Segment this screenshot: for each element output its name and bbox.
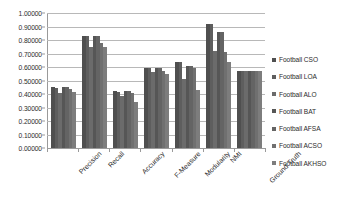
legend-item[interactable]: Football LOA bbox=[272, 69, 349, 84]
legend-item[interactable]: Football ACSO bbox=[272, 138, 349, 153]
legend-item[interactable]: Football BAT bbox=[272, 104, 349, 119]
x-axis-tick-label: Accuracy bbox=[140, 150, 165, 175]
y-axis-tick-label: 0.80000 bbox=[19, 37, 42, 44]
legend: Football CSOFootball LOAFootball ALOFoot… bbox=[272, 52, 349, 173]
y-axis-labels: 1.000000.900000.800000.700000.600000.500… bbox=[0, 13, 45, 148]
bar bbox=[258, 71, 261, 148]
bar-group-inner bbox=[175, 13, 199, 148]
y-axis-tick bbox=[42, 121, 45, 122]
bar-chart: 1.000000.900000.800000.700000.600000.500… bbox=[0, 0, 349, 215]
bar bbox=[72, 92, 75, 148]
bar-group bbox=[141, 13, 172, 148]
legend-label: Football LOA bbox=[279, 73, 317, 80]
bar bbox=[227, 62, 230, 148]
legend-label: Football AFSA bbox=[279, 125, 321, 132]
bar-group bbox=[172, 13, 203, 148]
bar-group-inner bbox=[237, 13, 261, 148]
y-axis-tick bbox=[42, 80, 45, 81]
bar bbox=[165, 74, 168, 148]
legend-item[interactable]: Football CSO bbox=[272, 52, 349, 67]
legend-label: Football BAT bbox=[279, 108, 316, 115]
legend-item[interactable]: Football AKHSO bbox=[272, 156, 349, 171]
x-axis-tick-label: Recall bbox=[107, 150, 126, 169]
x-axis-tick-label: Precision bbox=[77, 150, 102, 175]
y-axis-tick bbox=[42, 53, 45, 54]
bar-group-inner bbox=[82, 13, 106, 148]
bar-group bbox=[48, 13, 79, 148]
y-axis-tick bbox=[42, 40, 45, 41]
x-axis-tick-label: F-Measure bbox=[173, 150, 202, 179]
bar-group-inner bbox=[206, 13, 230, 148]
bar bbox=[196, 90, 199, 148]
y-axis-tick bbox=[42, 26, 45, 27]
legend-swatch-icon bbox=[272, 92, 276, 96]
bar-group-inner bbox=[144, 13, 168, 148]
y-axis-tick-label: 0.10000 bbox=[19, 131, 42, 138]
y-axis-tick bbox=[42, 67, 45, 68]
bar-group bbox=[234, 13, 265, 148]
y-axis-tick bbox=[42, 94, 45, 95]
bar-group-inner bbox=[113, 13, 137, 148]
legend-swatch-icon bbox=[272, 144, 276, 148]
y-axis-tick bbox=[42, 134, 45, 135]
y-axis-tick bbox=[42, 148, 45, 149]
legend-swatch-icon bbox=[272, 75, 276, 79]
bar-group-inner bbox=[51, 13, 75, 148]
plot-area bbox=[47, 13, 265, 148]
y-axis-tick-label: 0.60000 bbox=[19, 64, 42, 71]
legend-item[interactable]: Football AFSA bbox=[272, 121, 349, 136]
x-axis-tick-label: NMI bbox=[229, 150, 243, 164]
legend-swatch-icon bbox=[272, 58, 276, 62]
bar bbox=[134, 102, 137, 148]
y-axis-tick-label: 0.20000 bbox=[19, 118, 42, 125]
x-axis-labels: PrecisionRecallAccuracyF-MeasureModulari… bbox=[47, 150, 265, 212]
bar bbox=[103, 47, 106, 148]
bar-group bbox=[79, 13, 110, 148]
y-axis-tick-label: 0.00000 bbox=[19, 145, 42, 152]
x-axis-tick-label: Modularity bbox=[203, 150, 231, 178]
legend-label: Football CSO bbox=[279, 56, 318, 63]
legend-label: Football ACSO bbox=[279, 142, 322, 149]
legend-item[interactable]: Football ALO bbox=[272, 87, 349, 102]
y-axis-tick-label: 0.50000 bbox=[19, 77, 42, 84]
x-axis-tick bbox=[265, 148, 266, 152]
y-axis-tick-label: 0.70000 bbox=[19, 50, 42, 57]
legend-swatch-icon bbox=[272, 109, 276, 113]
legend-label: Football ALO bbox=[279, 91, 317, 98]
y-axis-tick-label: 0.30000 bbox=[19, 104, 42, 111]
y-axis-tick-label: 0.90000 bbox=[19, 23, 42, 30]
y-axis-tick-label: 1.00000 bbox=[19, 10, 42, 17]
y-axis-tick bbox=[42, 13, 45, 14]
bar-group bbox=[110, 13, 141, 148]
legend-label: Football AKHSO bbox=[279, 160, 326, 167]
legend-swatch-icon bbox=[272, 127, 276, 131]
bar-groups bbox=[48, 13, 265, 148]
y-axis-tick bbox=[42, 107, 45, 108]
legend-swatch-icon bbox=[272, 161, 276, 165]
y-axis-tick-label: 0.40000 bbox=[19, 91, 42, 98]
bar-group bbox=[203, 13, 234, 148]
